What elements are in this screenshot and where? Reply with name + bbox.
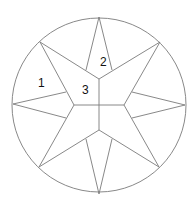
region-label-1: 1 bbox=[38, 76, 45, 90]
ray-south bbox=[86, 139, 112, 194]
ray-west bbox=[13, 92, 66, 118]
ray-northeast bbox=[99, 42, 160, 105]
ray-east bbox=[132, 92, 185, 118]
compass-star-diagram: 1 2 3 bbox=[0, 0, 195, 203]
ray-north bbox=[86, 17, 112, 70]
region-label-2: 2 bbox=[100, 55, 107, 69]
region-label-3: 3 bbox=[82, 83, 89, 97]
